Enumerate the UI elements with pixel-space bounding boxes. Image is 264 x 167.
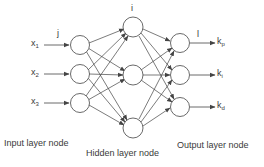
output-node-1 [171,34,190,53]
hidden-node-2 [123,65,143,85]
input-node-1 [71,36,90,55]
output-layer-label: Output layer node [177,140,249,150]
output-node-2 [171,66,190,85]
output-node-3 [171,98,190,117]
hidden-node-3 [123,118,143,138]
input-layer-label: Input layer node [4,138,69,148]
input-label-x2: x2 [31,67,39,78]
output-label-kp: kp [217,36,225,47]
output-index-label: l [197,29,199,39]
hidden-index-label: i [131,3,133,13]
hidden-output-connections [139,29,174,126]
input-arrows [44,45,69,103]
input-label-x1: x1 [31,38,39,49]
output-label-ki: ki [217,68,223,79]
output-label-kd: kd [217,100,225,111]
input-node-3 [71,94,90,113]
input-index-label: j [57,28,59,38]
hidden-node-1 [123,17,143,37]
output-arrows [190,43,215,107]
input-hidden-connections [86,29,128,125]
hidden-layer-label: Hidden layer node [86,148,159,158]
input-label-x3: x3 [31,96,39,107]
input-node-2 [71,65,90,84]
